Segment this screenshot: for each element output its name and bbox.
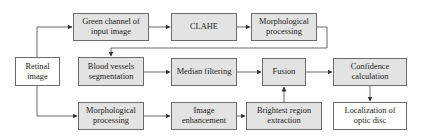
node-label: Morphological processing [81, 106, 141, 125]
node-morphological-processing-bottom: Morphological processing [78, 102, 144, 130]
node-median-filtering: Median filtering [171, 58, 237, 86]
node-confidence-calculation: Confidence calculation [333, 58, 407, 86]
node-clahe: CLAHE [171, 13, 237, 41]
node-label: Green channel of input image [76, 17, 146, 36]
node-blood-vessels-segmentation: Blood vessels segmentation [78, 57, 144, 86]
node-label: CLAHE [190, 22, 218, 32]
node-label: Brightest region extraction [249, 106, 319, 125]
node-label: Image enhancement [174, 106, 234, 125]
node-image-enhancement: Image enhancement [171, 102, 237, 130]
node-label: Retinal image [18, 62, 57, 81]
node-green-channel: Green channel of input image [73, 13, 149, 41]
node-brightest-region-extraction: Brightest region extraction [246, 102, 322, 130]
node-retinal-image: Retinal image [15, 57, 60, 86]
node-label: Confidence calculation [336, 62, 404, 81]
node-label: Blood vessels segmentation [81, 62, 141, 81]
node-label: Localization of optic disc [336, 106, 404, 125]
node-label: Morphological processing [254, 17, 314, 36]
node-morphological-processing-top: Morphological processing [251, 13, 317, 41]
node-localization-optic-disc: Localization of optic disc [333, 102, 407, 130]
node-label: Median filtering [177, 67, 232, 77]
node-fusion: Fusion [262, 58, 306, 86]
node-label: Fusion [273, 67, 296, 77]
